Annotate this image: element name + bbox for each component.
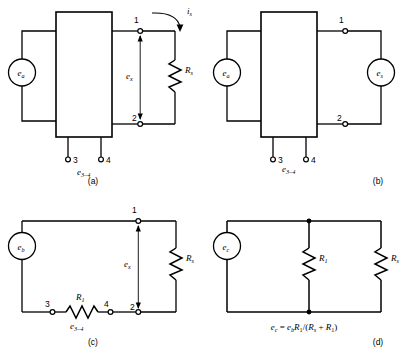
terminal-1-label-c: 1 xyxy=(132,205,137,215)
resistor-r1-label-c: R1 xyxy=(75,292,85,303)
node-bottom-d xyxy=(307,310,312,315)
panel-tag-a: (a) xyxy=(88,176,99,186)
wire-t1-to-source-b xyxy=(348,31,382,59)
terminal-1-label-b: 1 xyxy=(339,15,344,25)
left-loop-bottom-wire-a xyxy=(22,86,56,121)
terminal-2-label-a: 2 xyxy=(132,113,137,123)
node-top-d xyxy=(307,219,312,224)
resistor-r1-c xyxy=(66,306,98,318)
resistor-rs-c xyxy=(170,248,182,280)
current-is-label-a: is xyxy=(187,6,193,17)
panel-tag-b: (b) xyxy=(373,176,384,186)
voltage-ex-arrow-down-c xyxy=(136,303,141,310)
terminal-1-c xyxy=(136,219,141,224)
left-loop-top-wire-a xyxy=(22,31,56,59)
terminal-2-c xyxy=(136,310,141,315)
panel-tag-c: (c) xyxy=(88,337,98,347)
panel-d: ec R1 Rs ec = ebR1/(Rs + R1) (d) xyxy=(205,190,411,349)
resistor-r1-d xyxy=(303,248,315,280)
terminal-4-label-b: 4 xyxy=(311,155,316,165)
resistor-r1-label-d: R1 xyxy=(318,253,328,264)
terminal-3-b xyxy=(271,157,276,162)
resistor-rs-label-c: Rs xyxy=(185,253,195,264)
current-is-arc-a xyxy=(152,13,180,27)
voltage-ex-arrow-up-a xyxy=(138,35,143,42)
terminal-4-label-c: 4 xyxy=(104,299,109,309)
wire-source-to-t2-b xyxy=(348,86,382,124)
equation-d: ec = ebR1/(Rs + R1) xyxy=(271,322,338,333)
terminal-2-a xyxy=(138,122,143,127)
terminal-voltage-label-c: e3–4 xyxy=(70,321,83,332)
resistor-rs-label-a: Rs xyxy=(184,65,194,76)
black-box-a xyxy=(56,12,112,137)
voltage-ex-arrow-down-a xyxy=(138,114,143,121)
terminal-4-c xyxy=(108,310,113,315)
resistor-rs-label-d: Rs xyxy=(390,253,400,264)
current-is-arrowhead-a xyxy=(177,25,184,33)
panel-b: ea es 1 2 3 4 e3–4 xyxy=(205,0,411,185)
voltage-ex-label-a: ex xyxy=(126,71,133,82)
terminal-2-label-c: 2 xyxy=(130,302,135,312)
terminal-3-a xyxy=(66,157,71,162)
left-loop-top-wire-b xyxy=(227,31,261,59)
terminal-3-label-b: 3 xyxy=(278,155,283,165)
voltage-ex-label-c: ex xyxy=(124,259,131,270)
terminal-2-b xyxy=(343,122,348,127)
terminal-3-label-c: 3 xyxy=(45,299,50,309)
terminal-1-label-a: 1 xyxy=(134,15,139,25)
terminal-3-c xyxy=(50,310,55,315)
terminal-voltage-label-b: e3–4 xyxy=(282,164,295,175)
terminal-4-label-a: 4 xyxy=(106,155,111,165)
terminal-3-label-a: 3 xyxy=(73,155,78,165)
resistor-rs-a xyxy=(169,60,181,92)
terminal-4-b xyxy=(304,157,309,162)
panel-tag-d: (d) xyxy=(373,337,384,347)
left-loop-bottom-wire-b xyxy=(227,86,261,121)
panel-a: ea 1 2 Rs ex xyxy=(0,0,206,185)
voltage-ex-arrow-up-c xyxy=(136,225,141,232)
circuit-figure: ea 1 2 Rs ex xyxy=(0,0,411,349)
terminal-1-a xyxy=(138,29,143,34)
panel-c: eb 3 4 2 R1 e3–4 1 xyxy=(0,190,206,349)
resistor-rs-d xyxy=(375,248,387,280)
terminal-1-b xyxy=(343,29,348,34)
terminal-2-label-b: 2 xyxy=(337,113,342,123)
black-box-b xyxy=(261,12,317,137)
terminal-4-a xyxy=(99,157,104,162)
